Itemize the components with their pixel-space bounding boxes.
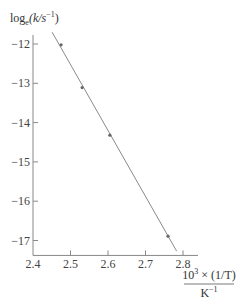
data-point-marker [166, 235, 169, 238]
data-point-marker [60, 43, 63, 46]
y-tick-label: −12 [11, 37, 30, 51]
y-tick-label: −16 [11, 194, 30, 208]
regression-line [52, 32, 177, 251]
y-tick-label: −17 [11, 234, 30, 248]
axes [33, 35, 198, 255]
data-point-marker [108, 134, 111, 137]
data-point-marker [81, 86, 84, 89]
svg-text:K−1: K−1 [200, 285, 217, 300]
y-axis-ticks: −12−13−14−15−16−17 [11, 37, 38, 248]
x-axis-title: 103 × (1/T) K−1 [182, 267, 235, 300]
y-axis-title: loge(k/s−1) [10, 10, 59, 27]
x-tick-label: 2.6 [101, 257, 116, 271]
y-tick-label: −15 [11, 155, 30, 169]
x-tick-label: 2.4 [26, 257, 41, 271]
y-tick-label: −13 [11, 76, 30, 90]
svg-text:103 × (1/T): 103 × (1/T) [182, 267, 235, 282]
data-points [60, 43, 170, 238]
x-tick-label: 2.5 [63, 257, 78, 271]
x-axis-ticks: 2.42.52.62.72.8 [26, 250, 191, 271]
arrhenius-chart: 2.42.52.62.72.8 −12−13−14−15−16−17 loge(… [0, 0, 245, 308]
x-tick-label: 2.7 [138, 257, 153, 271]
fit-line [52, 32, 177, 251]
y-tick-label: −14 [11, 116, 30, 130]
